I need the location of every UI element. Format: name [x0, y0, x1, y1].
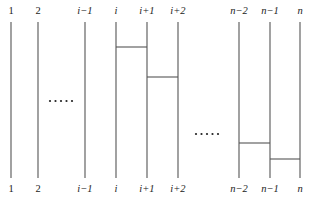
bottom-label-1: 1 [8, 183, 13, 194]
wires [11, 22, 300, 178]
top-label-n-minus-2: n−2 [230, 5, 248, 16]
top-label-2: 2 [35, 5, 40, 16]
top-label-i-plus-1: i+1 [139, 5, 154, 16]
bottom-label-2: 2 [35, 183, 40, 194]
top-label-n-minus-1: n−1 [261, 5, 279, 16]
rungs [116, 47, 300, 159]
top-label-i-plus-2: i+2 [170, 5, 186, 16]
bottom-label-i-plus-1: i+1 [139, 183, 154, 194]
ladder-diagram: 1 2 i−1 i i+1 i+2 n−2 n−1 n [0, 0, 312, 206]
top-labels: 1 2 i−1 i i+1 i+2 n−2 n−1 n [8, 5, 302, 16]
top-label-n: n [297, 5, 302, 16]
bottom-label-i-plus-2: i+2 [170, 183, 186, 194]
bottom-label-n-minus-1: n−1 [261, 183, 279, 194]
bottom-label-i: i [115, 183, 118, 194]
ellipsis-dots-right [195, 133, 219, 135]
top-label-i: i [115, 5, 118, 16]
bottom-labels: 1 2 i−1 i i+1 i+2 n−2 n−1 n [8, 183, 302, 194]
top-label-1: 1 [8, 5, 13, 16]
bottom-label-n-minus-2: n−2 [230, 183, 248, 194]
ellipsis-dots-left [49, 100, 73, 102]
bottom-label-n: n [297, 183, 302, 194]
bottom-label-i-minus-1: i−1 [77, 183, 92, 194]
top-label-i-minus-1: i−1 [77, 5, 92, 16]
